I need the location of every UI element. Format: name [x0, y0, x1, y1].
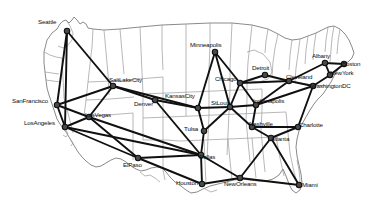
node-label-neworleans: NewOrleans [224, 181, 257, 187]
network-node-saltlakecity[interactable] [110, 83, 115, 88]
network-node-detroit[interactable] [262, 72, 267, 77]
node-label-charlotte: Charlotte [299, 122, 323, 128]
network-node-minneapolis[interactable] [212, 49, 217, 54]
network-link-tulsa-dallas[interactable] [201, 131, 204, 155]
state-border-38 [204, 140, 206, 184]
node-label-boston: Boston [342, 61, 360, 67]
node-label-dallas: Dallas [199, 154, 215, 160]
network-node-seattle[interactable] [64, 28, 69, 33]
network-link-losangeles-elpaso[interactable] [65, 127, 138, 158]
network-topology-map: SeattleSanFranciscoLosAngelesLasVegasSal… [0, 0, 377, 224]
node-label-atlanta: Atlanta [271, 136, 289, 142]
state-border-15 [163, 146, 165, 180]
state-border-33 [325, 27, 328, 52]
network-node-miami[interactable] [296, 182, 301, 187]
network-node-albany[interactable] [322, 60, 327, 65]
state-border-13 [143, 115, 214, 118]
network-link-kansascity-stlouis[interactable] [198, 107, 230, 108]
node-label-stlouis: StLouis [211, 100, 231, 106]
state-border-48 [45, 72, 59, 74]
node-label-denver: Denver [134, 101, 153, 107]
network-link-seattle-saltlakecity[interactable] [67, 31, 113, 86]
network-node-kansascity[interactable] [195, 105, 200, 110]
node-label-indianapolis: Indianapolis [253, 98, 284, 104]
node-label-chicago: Chicago [215, 76, 237, 82]
state-border-43 [337, 29, 340, 54]
coast-detail-1 [70, 139, 73, 146]
state-border-49 [46, 80, 60, 82]
state-border-27 [272, 34, 278, 76]
state-border-2 [86, 97, 134, 100]
node-label-elpaso: ElPaso [123, 162, 142, 168]
network-node-losangeles[interactable] [62, 124, 67, 129]
node-label-lasvegas: LasVegas [85, 112, 111, 118]
state-border-17 [207, 68, 209, 160]
network-node-denver[interactable] [152, 97, 157, 102]
state-border-0 [84, 29, 93, 116]
node-label-nashville: Nashville [249, 121, 273, 127]
coast-detail-3 [205, 189, 217, 192]
node-label-minneapolis: Minneapolis [190, 42, 221, 48]
state-border-42 [330, 26, 334, 62]
state-border-24 [265, 29, 268, 53]
node-label-washingtondc: WashingtonDC [311, 83, 351, 89]
network-node-chicago[interactable] [237, 80, 242, 85]
node-label-seattle: Seattle [38, 19, 56, 25]
state-border-4 [104, 30, 109, 95]
network-link-elpaso-dallas[interactable] [138, 155, 201, 158]
coast-detail-2 [140, 172, 160, 182]
node-label-miami: Miami [302, 182, 318, 188]
node-label-newyork: NewYork [330, 70, 353, 76]
network-link-lasvegas-elpaso[interactable] [89, 117, 138, 158]
network-link-stlouis-indianapolis[interactable] [230, 105, 256, 107]
state-border-5 [120, 29, 124, 74]
network-link-stlouis-chicago[interactable] [230, 83, 240, 107]
state-border-22 [247, 25, 252, 80]
node-label-kansascity: KansasCity [165, 93, 195, 99]
node-label-houston: Houston [176, 180, 198, 186]
node-label-losangeles: LosAngeles [24, 120, 55, 126]
network-node-sanfrancisco[interactable] [54, 102, 59, 107]
network-link-tulsa-stlouis[interactable] [204, 107, 230, 131]
network-node-elpaso[interactable] [135, 155, 140, 160]
state-border-31 [305, 36, 308, 64]
state-border-25 [246, 80, 247, 120]
state-border-8 [162, 25, 163, 70]
network-node-houston[interactable] [199, 181, 204, 186]
node-label-albany: Albany [312, 53, 330, 59]
node-label-sanfrancisco: SanFrancisco [12, 98, 48, 104]
network-link-losangeles-lasvegas[interactable] [65, 117, 89, 127]
state-border-29 [289, 40, 292, 70]
state-border-45 [44, 52, 62, 58]
node-label-saltlakecity: SaltLakeCity [109, 77, 142, 83]
network-link-kansascity-tulsa[interactable] [198, 108, 204, 131]
node-label-cleveland: Cleveland [286, 74, 312, 80]
map-canvas [0, 0, 377, 224]
network-link-cleveland-washingtondc[interactable] [289, 81, 313, 86]
state-border-6 [140, 27, 143, 140]
node-label-tulsa: Tulsa [184, 126, 198, 132]
node-label-detroit: Detroit [252, 65, 269, 71]
network-node-tulsa[interactable] [201, 128, 206, 133]
state-border-11 [230, 23, 232, 66]
